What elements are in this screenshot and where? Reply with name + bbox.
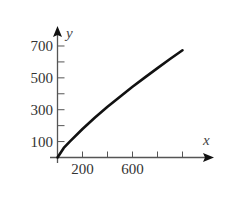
y-tick-label: 500 xyxy=(31,70,54,86)
y-tick-label: 300 xyxy=(31,102,54,118)
y-tick-label: 100 xyxy=(31,134,54,150)
x-axis-label: x xyxy=(202,132,210,148)
x-axis: 200600 x xyxy=(50,132,214,177)
y-axis-label: y xyxy=(64,25,73,41)
data-curve xyxy=(58,50,183,157)
y-tick-label: 700 xyxy=(31,38,54,54)
line-chart: 200600 x 100300500700 y xyxy=(0,0,226,216)
y-axis: 100300500700 y xyxy=(31,25,74,163)
x-tick-label: 600 xyxy=(121,161,144,177)
x-tick-label: 200 xyxy=(71,161,94,177)
